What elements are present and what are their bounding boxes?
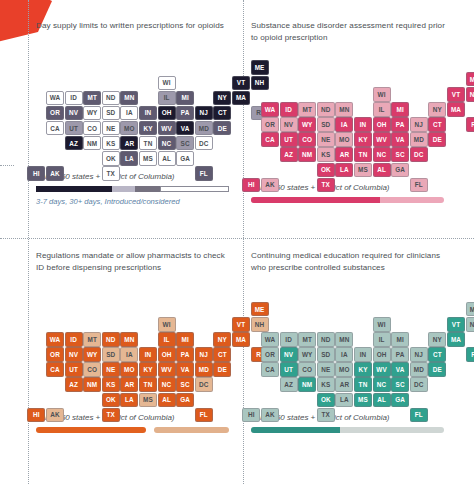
state-tile[interactable]: UT bbox=[65, 121, 83, 136]
state-tile[interactable]: MS bbox=[139, 393, 157, 408]
state-tile[interactable]: AL bbox=[158, 151, 176, 166]
state-tile[interactable]: MD bbox=[410, 362, 428, 377]
state-tile[interactable]: SC bbox=[391, 147, 409, 162]
state-tile[interactable]: KS bbox=[102, 377, 120, 392]
state-tile[interactable]: OK bbox=[317, 163, 335, 178]
state-tile[interactable]: WI bbox=[373, 317, 391, 332]
state-tile[interactable]: ID bbox=[280, 332, 298, 347]
state-tile[interactable]: LA bbox=[120, 393, 138, 408]
state-tile[interactable]: NY bbox=[213, 332, 231, 347]
state-tile[interactable]: MN bbox=[335, 332, 353, 347]
state-tile[interactable]: GA bbox=[391, 393, 409, 408]
state-tile[interactable]: DE bbox=[213, 121, 231, 136]
state-tile[interactable]: IL bbox=[373, 332, 391, 347]
state-tile[interactable]: MI bbox=[391, 332, 409, 347]
state-tile[interactable]: FL bbox=[195, 408, 213, 423]
state-tile[interactable]: AZ bbox=[280, 147, 298, 162]
state-tile[interactable]: SD bbox=[102, 347, 120, 362]
state-tile[interactable]: ND bbox=[102, 91, 120, 106]
state-tile[interactable]: HI bbox=[27, 408, 45, 423]
state-tile[interactable]: OH bbox=[373, 117, 391, 132]
state-tile[interactable]: CO bbox=[298, 362, 316, 377]
state-tile[interactable]: WV bbox=[373, 362, 391, 377]
state-tile[interactable]: SC bbox=[176, 377, 194, 392]
state-tile[interactable]: KS bbox=[102, 136, 120, 151]
state-tile[interactable]: CO bbox=[298, 132, 316, 147]
state-tile[interactable]: WI bbox=[158, 76, 176, 91]
state-tile[interactable]: OH bbox=[373, 347, 391, 362]
state-tile[interactable]: GA bbox=[176, 393, 194, 408]
state-tile[interactable]: CT bbox=[213, 347, 231, 362]
state-tile[interactable]: PA bbox=[391, 347, 409, 362]
state-tile[interactable]: VA bbox=[391, 132, 409, 147]
state-tile[interactable]: ID bbox=[65, 332, 83, 347]
state-tile[interactable]: VT bbox=[232, 317, 250, 332]
state-tile[interactable]: OR bbox=[46, 106, 64, 121]
state-tile[interactable]: ND bbox=[317, 332, 335, 347]
state-tile[interactable]: MN bbox=[120, 91, 138, 106]
state-tile[interactable]: MS bbox=[354, 163, 372, 178]
state-tile[interactable]: WY bbox=[83, 347, 101, 362]
state-tile[interactable]: MD bbox=[195, 121, 213, 136]
state-tile[interactable]: VA bbox=[176, 362, 194, 377]
state-tile[interactable]: KY bbox=[354, 132, 372, 147]
state-tile[interactable]: IL bbox=[158, 91, 176, 106]
state-tile[interactable]: MD bbox=[410, 132, 428, 147]
state-tile[interactable]: AK bbox=[261, 178, 279, 193]
state-tile[interactable]: TX bbox=[317, 178, 335, 193]
state-tile[interactable]: OR bbox=[261, 347, 279, 362]
state-tile[interactable]: KY bbox=[354, 362, 372, 377]
state-tile[interactable]: AR bbox=[335, 377, 353, 392]
state-tile[interactable]: OR bbox=[46, 347, 64, 362]
state-tile[interactable]: PA bbox=[391, 117, 409, 132]
state-tile[interactable]: SD bbox=[317, 117, 335, 132]
state-tile[interactable]: IA bbox=[335, 117, 353, 132]
state-tile[interactable]: MI bbox=[176, 332, 194, 347]
state-tile[interactable]: WA bbox=[46, 91, 64, 106]
state-tile[interactable]: CT bbox=[428, 347, 446, 362]
state-tile[interactable]: RI bbox=[466, 117, 474, 132]
state-tile[interactable]: MA bbox=[447, 102, 465, 117]
state-tile[interactable]: AL bbox=[158, 393, 176, 408]
state-tile[interactable]: MI bbox=[391, 102, 409, 117]
state-tile[interactable]: SD bbox=[317, 347, 335, 362]
state-tile[interactable]: IN bbox=[354, 347, 372, 362]
state-tile[interactable]: IL bbox=[158, 332, 176, 347]
state-tile[interactable]: ME bbox=[466, 302, 474, 317]
state-tile[interactable]: ID bbox=[280, 102, 298, 117]
state-tile[interactable]: WA bbox=[261, 102, 279, 117]
state-tile[interactable]: MN bbox=[120, 332, 138, 347]
state-tile[interactable]: ID bbox=[65, 91, 83, 106]
state-tile[interactable]: OK bbox=[102, 151, 120, 166]
state-tile[interactable]: MT bbox=[298, 332, 316, 347]
state-tile[interactable]: FL bbox=[195, 166, 213, 181]
state-tile[interactable]: NE bbox=[317, 362, 335, 377]
state-tile[interactable]: CA bbox=[261, 132, 279, 147]
state-tile[interactable]: NE bbox=[102, 362, 120, 377]
state-tile[interactable]: NV bbox=[280, 117, 298, 132]
state-tile[interactable]: IA bbox=[335, 347, 353, 362]
state-tile[interactable]: AK bbox=[46, 166, 64, 181]
state-tile[interactable]: WY bbox=[83, 106, 101, 121]
state-tile[interactable]: CT bbox=[428, 117, 446, 132]
state-tile[interactable]: AL bbox=[373, 163, 391, 178]
state-tile[interactable]: UT bbox=[280, 362, 298, 377]
state-tile[interactable]: NE bbox=[317, 132, 335, 147]
state-tile[interactable]: TN bbox=[139, 136, 157, 151]
state-tile[interactable]: TX bbox=[102, 408, 120, 423]
state-tile[interactable]: WV bbox=[373, 132, 391, 147]
state-tile[interactable]: MO bbox=[120, 362, 138, 377]
state-tile[interactable]: LA bbox=[120, 151, 138, 166]
state-tile[interactable]: SC bbox=[391, 377, 409, 392]
state-tile[interactable]: CO bbox=[83, 362, 101, 377]
state-tile[interactable]: CA bbox=[46, 121, 64, 136]
state-tile[interactable]: TX bbox=[317, 408, 335, 423]
state-tile[interactable]: KY bbox=[139, 121, 157, 136]
state-tile[interactable]: MS bbox=[139, 151, 157, 166]
state-tile[interactable]: NV bbox=[65, 106, 83, 121]
state-tile[interactable]: WV bbox=[158, 121, 176, 136]
state-tile[interactable]: IN bbox=[139, 106, 157, 121]
state-tile[interactable]: WI bbox=[158, 317, 176, 332]
state-tile[interactable]: OK bbox=[102, 393, 120, 408]
state-tile[interactable]: MA bbox=[232, 332, 250, 347]
